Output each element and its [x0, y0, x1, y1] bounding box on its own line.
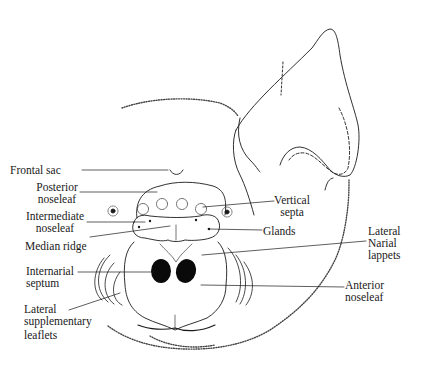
posterior-noseleaf-shape — [137, 182, 226, 218]
label-lateral-narial-lappets: Lateral Narial lappets — [368, 225, 401, 261]
head-fur-outline — [108, 99, 349, 349]
label-text: Narial — [368, 237, 401, 249]
label-text: Lateral — [24, 303, 92, 315]
label-text: supplementary — [24, 315, 92, 327]
frontal-sac — [170, 170, 183, 175]
label-text: Median ridge — [25, 240, 87, 252]
label-text: lappets — [368, 249, 401, 261]
lower-lip — [138, 325, 215, 331]
label-glands: Glands — [263, 225, 296, 237]
label-vertical-septa: Vertical septa — [270, 194, 314, 218]
gland-dots — [138, 219, 210, 230]
label-text: Vertical — [270, 194, 314, 206]
label-text: leaflets — [24, 329, 92, 341]
ear-outline — [233, 29, 359, 215]
eyes — [108, 206, 232, 217]
label-text: Glands — [263, 225, 296, 237]
label-text: septum — [26, 277, 74, 289]
bat-noseleaf-diagram: Frontal sac Posterior noseleaf Intermedi… — [0, 0, 428, 372]
label-text: noseleaf — [32, 193, 82, 205]
lateral-leaflets-left — [95, 255, 122, 305]
label-text: noseleaf — [22, 222, 88, 234]
anterior-noseleaf-shape — [124, 242, 226, 330]
label-text: Posterior — [32, 181, 82, 193]
label-text: septa — [270, 206, 314, 218]
lateral-leaflets-right — [228, 248, 253, 305]
label-text: noseleaf — [345, 291, 384, 303]
label-lateral-supplementary-leaflets: Lateral supplementary leaflets — [24, 303, 92, 341]
label-intermediate-noseleaf: Intermediate noseleaf — [22, 210, 88, 234]
label-internarial-septum: Internarial septum — [26, 265, 74, 289]
label-median-ridge: Median ridge — [25, 240, 87, 252]
label-text: Intermediate — [22, 210, 88, 222]
label-anterior-noseleaf: Anterior noseleaf — [345, 279, 384, 303]
label-text: Internarial — [26, 265, 74, 277]
label-frontal-sac: Frontal sac — [10, 164, 61, 176]
label-text: Anterior — [345, 279, 384, 291]
label-posterior-noseleaf: Posterior noseleaf — [32, 181, 82, 205]
nostrils — [151, 257, 199, 285]
gland-tufts — [138, 199, 207, 215]
label-text: Frontal sac — [10, 164, 61, 176]
label-text: Lateral — [368, 225, 401, 237]
